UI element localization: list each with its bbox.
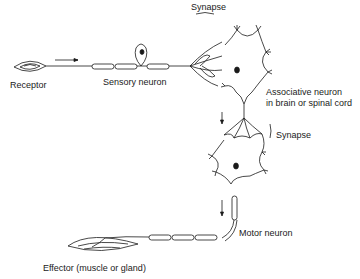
receptor-shape	[14, 61, 92, 71]
motor-neuron-cell-shape	[208, 134, 268, 184]
effector-shape	[68, 237, 138, 250]
receptor-label: Receptor	[10, 80, 47, 90]
associative-neuron-label-line1: Associative neuron	[266, 87, 342, 97]
synapse-middle-label: Synapse	[276, 130, 311, 140]
effector-label: Effector (muscle or gland)	[43, 263, 146, 273]
motor-neuron-axon-shape	[105, 196, 237, 241]
associative-neuron-shape	[221, 25, 272, 138]
reflex-arc-diagram: Receptor Sensory neuron Synapse Associat…	[0, 0, 360, 279]
synapse-top-label: Synapse	[191, 2, 226, 12]
arrow-down-icon-2	[221, 200, 224, 216]
associative-neuron-label-line2: in brain or spinal cord	[266, 98, 352, 108]
motor-neuron-label: Motor neuron	[239, 228, 293, 238]
arrow-down-icon	[221, 112, 224, 124]
sensory-neuron-label: Sensory neuron	[103, 77, 167, 87]
synapse-top-brace	[196, 13, 214, 15]
synapse-middle-brace	[270, 124, 271, 138]
arrow-right-icon	[55, 59, 78, 62]
